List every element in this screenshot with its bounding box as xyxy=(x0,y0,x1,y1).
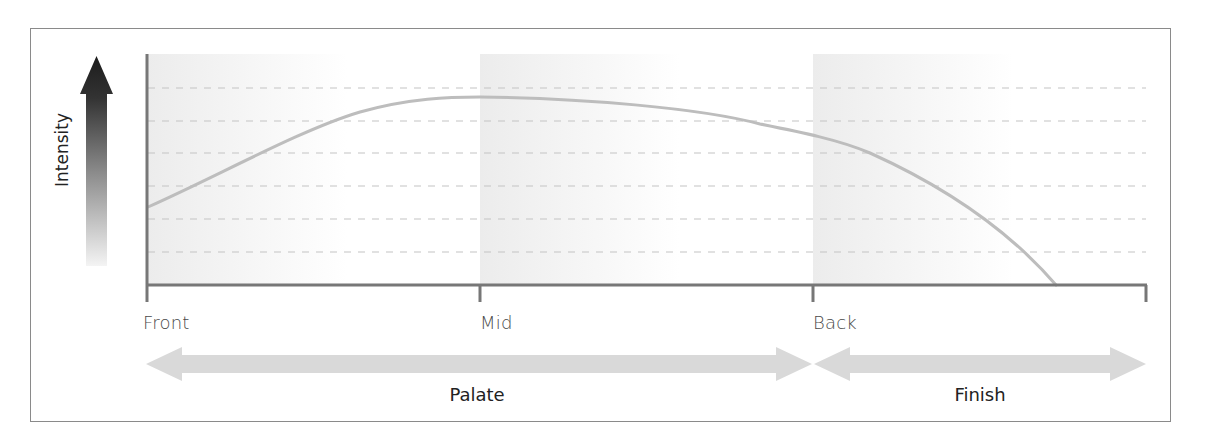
band-mid-back xyxy=(480,54,813,285)
tick-label-back: Back xyxy=(813,312,857,333)
band-front-mid xyxy=(147,54,480,285)
finish-range-arrow xyxy=(814,347,1146,381)
tick-label-mid: Mid xyxy=(480,312,513,333)
intensity-diagram xyxy=(0,0,1206,445)
range-arrows xyxy=(146,347,1146,381)
section-label-palate: Palate xyxy=(449,384,504,405)
intensity-arrow-icon xyxy=(80,56,113,266)
section-label-finish: Finish xyxy=(954,384,1005,405)
palate-range-arrow xyxy=(146,347,812,381)
band-back-end xyxy=(813,54,1146,285)
background-bands xyxy=(147,54,1146,285)
tick-label-front: Front xyxy=(143,312,190,333)
y-axis-label: Intensity xyxy=(52,113,72,187)
